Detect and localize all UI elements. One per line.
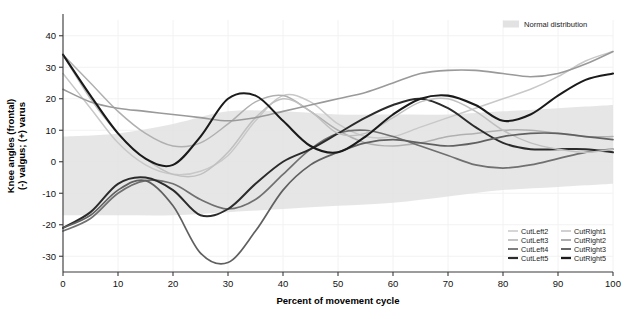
x-tick-label: 10 bbox=[113, 278, 124, 289]
y-tick-label: -20 bbox=[42, 219, 56, 230]
x-tick-label: 80 bbox=[498, 278, 509, 289]
y-tick-label: 30 bbox=[45, 62, 56, 73]
y-tick-label: -30 bbox=[42, 251, 56, 262]
x-tick-label: 0 bbox=[60, 278, 65, 289]
x-tick-label: 40 bbox=[278, 278, 289, 289]
x-tick-label: 30 bbox=[223, 278, 234, 289]
x-tick-label: 60 bbox=[388, 278, 399, 289]
legend-label-CutLeft4: CutLeft4 bbox=[521, 245, 548, 254]
y-tick-label: 20 bbox=[45, 93, 56, 104]
y-axis-title-line1: Knee angles (frontal) bbox=[5, 99, 16, 194]
legend-label-CutRight2: CutRight2 bbox=[574, 236, 606, 245]
legend-label-CutLeft3: CutLeft3 bbox=[521, 236, 548, 245]
x-tick-label: 70 bbox=[443, 278, 454, 289]
y-tick-label: 10 bbox=[45, 125, 56, 136]
legend-label-normal-distribution: Normal distribution bbox=[524, 20, 587, 29]
y-axis-title: Knee angles (frontal)(-) valgus; (+) var… bbox=[5, 99, 27, 194]
y-axis-title-line2: (-) valgus; (+) varus bbox=[16, 102, 27, 190]
y-tick-label: 0 bbox=[51, 156, 56, 167]
chart-canvas: 403020100-10-20-300102030405060708090100… bbox=[0, 0, 630, 319]
y-tick-label: 40 bbox=[45, 30, 56, 41]
legend-swatch-normal-distribution bbox=[503, 21, 519, 28]
x-tick-label: 100 bbox=[605, 278, 621, 289]
legend-label-CutLeft5: CutLeft5 bbox=[521, 254, 548, 263]
legend-label-CutRight3: CutRight3 bbox=[574, 245, 606, 254]
x-tick-label: 20 bbox=[168, 278, 179, 289]
x-tick-label: 50 bbox=[333, 278, 344, 289]
x-axis-title: Percent of movement cycle bbox=[276, 295, 399, 306]
legend-label-CutRight1: CutRight1 bbox=[574, 227, 606, 236]
legend-label-CutLeft2: CutLeft2 bbox=[521, 227, 548, 236]
chart-figure: 403020100-10-20-300102030405060708090100… bbox=[0, 0, 630, 319]
x-tick-label: 90 bbox=[553, 278, 564, 289]
y-tick-label: -10 bbox=[42, 188, 56, 199]
legend-label-CutRight5: CutRight5 bbox=[574, 254, 606, 263]
